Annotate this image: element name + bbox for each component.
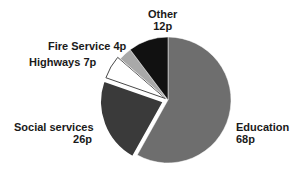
label-social-services-name: Social services [14,121,92,133]
label-social-services: Social services 26p [14,121,92,145]
label-education-name: Education [236,121,289,133]
label-education: Education 68p [236,121,289,145]
label-fire-service-text: Fire Service 4p [48,40,126,52]
pie-slices [100,37,231,163]
label-highways: Highways 7p [29,56,96,68]
label-other: Other 12p [148,8,177,32]
label-social-services-value: 26p [14,133,92,145]
label-highways-text: Highways 7p [29,56,96,68]
label-fire-service: Fire Service 4p [48,40,126,52]
label-education-value: 68p [236,133,289,145]
label-other-value: 12p [148,20,177,32]
label-other-name: Other [148,8,177,20]
